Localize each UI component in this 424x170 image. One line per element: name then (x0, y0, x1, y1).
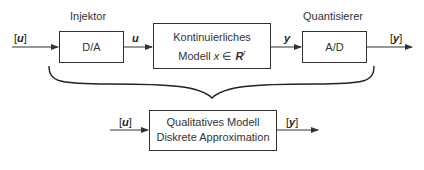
continuous-model-line2: Modell x ∈ Rr (153, 45, 271, 64)
injector-label: D/A (59, 40, 124, 55)
signal-u: u (132, 32, 139, 44)
var-u: u (17, 32, 24, 44)
qualitative-model-label: Qualitatives Modell Diskrete Approximati… (149, 115, 277, 145)
output-signal-y-quantized: [y] (390, 32, 402, 44)
bracket-close: ] (24, 32, 27, 44)
var-u: u (122, 116, 129, 128)
continuous-model-label: Kontinuierliches Modell x ∈ Rr (153, 30, 271, 64)
model-word: Modell (178, 50, 213, 62)
qualitative-model-line1: Qualitatives Modell (149, 115, 277, 130)
curly-brace (49, 66, 374, 98)
bracket-close: ] (129, 116, 132, 128)
continuous-model-line1: Kontinuierliches (153, 30, 271, 45)
qualitative-model-line2: Diskrete Approximation (149, 130, 277, 145)
bottom-output-signal-y: [y] (286, 116, 298, 128)
bracket-close: ] (295, 116, 298, 128)
input-signal-u-quantized: [u] (14, 32, 27, 44)
injector-caption: Injektor (70, 10, 106, 23)
signal-y: y (284, 32, 290, 44)
bracket-close: ] (399, 32, 402, 44)
superscript-r: r (243, 49, 245, 56)
quantizer-label: A/D (302, 40, 367, 55)
element-of-symbol: ∈ (219, 50, 235, 62)
quantizer-caption: Quantisierer (303, 10, 363, 23)
bottom-input-signal-u: [u] (119, 116, 132, 128)
